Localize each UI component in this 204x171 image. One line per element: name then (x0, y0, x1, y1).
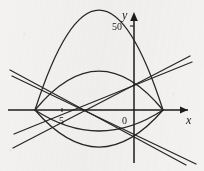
curve-deep-parabola-opening-up (35, 110, 163, 147)
y-axis-label: y (121, 8, 128, 22)
x-tick-label: 5 (59, 115, 64, 126)
curve-straight-line-shallow-a (14, 62, 192, 134)
curve-straight-line-steep-b (12, 76, 196, 164)
figure-canvas: y x 50 0 5 (0, 0, 204, 171)
curve-low-parabola-opening-down (35, 71, 163, 110)
x-axis-label: x (185, 113, 192, 127)
origin-label: 0 (122, 115, 127, 126)
plot-svg: y x 50 0 5 (0, 0, 204, 171)
y-tick-label: 50 (112, 21, 122, 32)
curve-shallow-parabola-opening-up (35, 110, 163, 131)
y-axis-arrow-icon (130, 12, 138, 21)
curve-straight-line-shallow-b (13, 56, 190, 148)
curve-tall-parabola-opening-down (35, 10, 163, 110)
